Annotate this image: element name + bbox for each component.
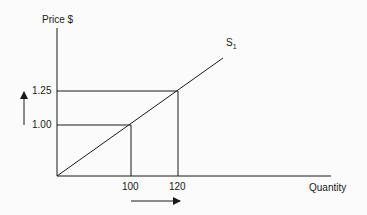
y-axis-label: Price $ — [42, 15, 73, 25]
curve-label-subscript: 1 — [233, 43, 237, 50]
x-tick-120: 120 — [169, 182, 186, 192]
supply-curve-s1 — [57, 58, 223, 176]
y-tick-1-25: 1.25 — [32, 86, 51, 96]
x-tick-100: 100 — [122, 182, 139, 192]
supply-curve-diagram: Price $ Quantity S1 1.25 1.00 100 120 — [0, 0, 367, 215]
y-tick-1-00: 1.00 — [32, 120, 51, 130]
curve-label-s1: S1 — [226, 38, 237, 48]
x-axis-label: Quantity — [309, 183, 346, 193]
curve-label-main: S — [226, 37, 233, 48]
